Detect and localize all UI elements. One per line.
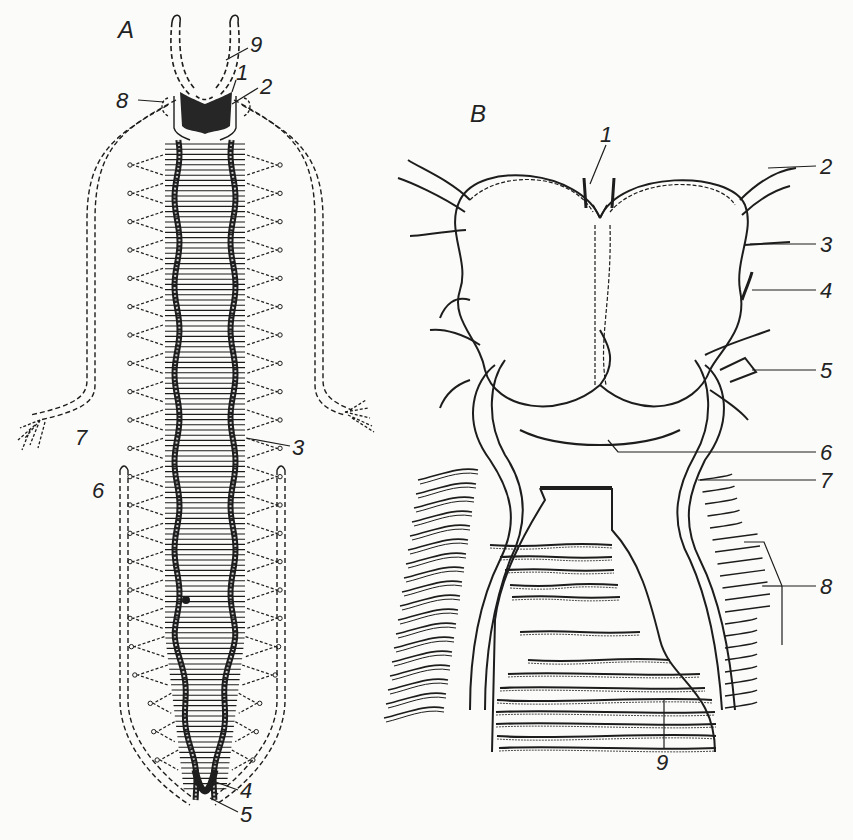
lateral-nerve-left <box>416 483 476 494</box>
commissure-shade <box>497 702 712 704</box>
lateral-nerve-right <box>725 690 757 696</box>
parapodial-nerve <box>133 382 163 402</box>
lateral-nerve-left <box>398 627 456 638</box>
lateral-nerve-left <box>406 553 466 564</box>
lateral-nerve-left <box>398 609 458 620</box>
parapodial-nerve <box>247 523 277 543</box>
parapodial-nerve <box>247 183 277 203</box>
commissure <box>496 723 716 725</box>
parapodial-nerve <box>160 750 178 770</box>
lateral-nerve-right <box>700 474 732 480</box>
lateral-nerve-right <box>708 510 740 516</box>
parapodial-nerve <box>247 580 277 600</box>
parapodial-nerve <box>235 722 253 742</box>
lateral-nerve-left <box>392 651 452 662</box>
parapodial-nerve <box>247 608 277 628</box>
parapodial-nerve <box>247 552 277 572</box>
body-outline-anterior <box>30 100 352 420</box>
commissure <box>528 659 670 661</box>
figure: A <box>0 0 853 840</box>
lateral-nerve-left <box>388 679 448 690</box>
parapodial-nerve <box>133 523 163 543</box>
body-outline-posterior <box>120 466 285 805</box>
parapodial-nerve <box>246 637 276 657</box>
panel-a: A <box>18 15 374 827</box>
parapodial-ganglion <box>251 758 255 762</box>
panel-a-label: A <box>116 16 134 43</box>
commissure-shade <box>490 547 612 549</box>
parapodial-nerve <box>133 410 163 430</box>
callout-a-1: 1 <box>236 60 248 85</box>
callout-b-8: 8 <box>820 574 833 599</box>
lateral-nerve-right <box>723 582 768 588</box>
lateral-nerve-left <box>386 711 444 722</box>
parapodial-nerve <box>133 580 163 600</box>
callout-a-5: 5 <box>240 802 253 827</box>
lateral-nerve-left <box>400 595 460 606</box>
lateral-nerve-left <box>390 665 450 676</box>
callout-a-3: 3 <box>292 435 305 460</box>
lateral-nerve-left <box>406 571 464 582</box>
lateral-nerve-left <box>396 623 456 634</box>
ventral-nerve-cord <box>128 140 282 800</box>
parapodial-nerve <box>133 552 163 572</box>
callout-b-3: 3 <box>820 232 833 257</box>
commissure-shade <box>528 662 670 664</box>
lateral-nerve-right <box>725 702 757 708</box>
lateral-nerve-left <box>394 637 454 648</box>
commissure <box>508 673 700 675</box>
parapodial-nerve <box>247 240 277 260</box>
commissure-shade <box>508 676 700 678</box>
lateral-nerve-left <box>420 473 478 484</box>
nerve-cord-left <box>175 140 197 800</box>
lateral-nerve-left <box>396 641 454 652</box>
callout-a-9: 9 <box>250 32 262 57</box>
cephalic-nerves <box>398 160 796 420</box>
parapodial-ganglion <box>258 701 262 705</box>
parapodial-nerve <box>247 495 277 515</box>
lateral-nerve-left <box>410 543 468 554</box>
commissure <box>505 569 614 571</box>
lateral-nerve-left <box>384 707 444 718</box>
commissure-shade <box>500 690 705 692</box>
parapodial-ganglion <box>148 701 152 705</box>
commissure-shade <box>496 714 715 716</box>
callout-a-7: 7 <box>75 425 88 450</box>
commissure <box>497 735 716 737</box>
commissure <box>512 596 620 598</box>
lateral-nerve-left <box>414 515 472 526</box>
callout-b-4: 4 <box>820 278 832 303</box>
lateral-nerve-left <box>400 613 458 624</box>
commissure-shade <box>505 572 614 574</box>
lateral-nerve-left <box>408 539 468 550</box>
parapodial-nerve <box>133 240 163 260</box>
parapodial-ganglion <box>254 729 258 733</box>
lateral-nerve-right <box>725 642 757 648</box>
lateral-nerve-left <box>418 487 476 498</box>
parapodial-nerve <box>133 495 163 515</box>
lateral-nerve-right <box>718 558 763 564</box>
callout-b-5: 5 <box>820 358 833 383</box>
callout-b-1: 1 <box>600 122 612 147</box>
commissure-shade <box>497 738 716 740</box>
callout-b-6: 6 <box>820 440 833 465</box>
commissure <box>499 747 716 749</box>
parapodial-nerve <box>133 212 163 232</box>
lateral-nerve-right <box>725 606 770 612</box>
gill-tuft-right <box>345 400 374 432</box>
panel-b: B <box>384 100 833 775</box>
lateral-nerve-right <box>725 654 757 660</box>
parapodial-nerve <box>133 268 163 288</box>
lateral-nerve-left <box>408 557 466 568</box>
commissure-shade <box>500 559 612 561</box>
parapodial-nerve <box>247 212 277 232</box>
parapodial-nerve <box>133 183 163 203</box>
callout-a-8: 8 <box>116 88 129 113</box>
callout-a-6: 6 <box>92 478 105 503</box>
lateral-nerve-left <box>388 697 446 708</box>
nerve-cord-right <box>214 140 236 800</box>
lateral-nerve-right <box>720 570 765 576</box>
parapodial-nerve <box>157 722 175 742</box>
callout-b-2: 2 <box>819 154 832 179</box>
parapodial-nerve <box>247 155 277 175</box>
